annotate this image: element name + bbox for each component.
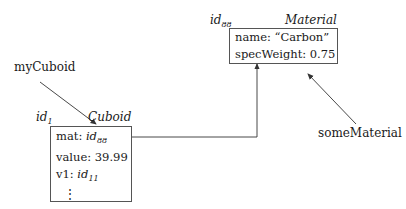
field-specweight: specWeight: 0.75 [230,46,337,63]
cuboid-object-box: mat: id88 value: 39.99 v1: id11 ⋮ [50,126,132,202]
material-class-name: Material [285,13,337,27]
field-value: value: 39.99 [51,149,131,166]
cuboid-id: id1 [36,110,53,126]
somematerial-arrow [308,74,356,124]
material-object-box: name: “Carbon” specWeight: 0.75 [229,28,338,64]
field-mat: mat: id88 [51,128,131,149]
ellipsis: ⋮ [51,187,131,201]
cuboid-class-name: Cuboid [88,110,131,124]
material-id: id88 [210,13,232,29]
field-name: name: “Carbon” [230,29,337,46]
field-v1: v1: id11 [51,166,131,187]
somematerial-label: someMaterial [318,126,402,140]
mycuboid-label: myCuboid [14,60,76,74]
mat-reference-arrow [126,64,257,137]
